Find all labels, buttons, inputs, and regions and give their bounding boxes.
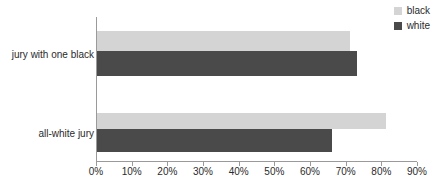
bar-white-all-white-jury (97, 129, 332, 152)
legend-label-black: black (407, 5, 430, 16)
bar-white-jury-with-one-black (97, 51, 357, 76)
x-axis-tick-label: 80% (371, 166, 391, 177)
legend-swatch-black-icon (394, 7, 402, 15)
x-axis-line (96, 161, 417, 162)
bar-chart: black white 0%10%20%30%40%50%60%70%80%90… (0, 0, 436, 192)
bar-black-jury-with-one-black (97, 31, 350, 51)
x-axis-tick-label: 90% (407, 166, 427, 177)
x-axis-tick-label: 0% (89, 166, 103, 177)
x-axis-tick-label: 70% (336, 166, 356, 177)
x-axis-tick-label: 40% (229, 166, 249, 177)
legend-item-black: black (394, 5, 430, 16)
plot-area (96, 17, 417, 162)
x-axis-tick-label: 30% (193, 166, 213, 177)
category-label: jury with one black (12, 48, 94, 59)
x-axis-tick-label: 10% (122, 166, 142, 177)
x-axis-tick-label: 20% (157, 166, 177, 177)
x-axis-tick-label: 60% (300, 166, 320, 177)
bar-black-all-white-jury (97, 113, 386, 129)
category-label: all-white jury (38, 127, 94, 138)
x-axis-tick-label: 50% (264, 166, 284, 177)
